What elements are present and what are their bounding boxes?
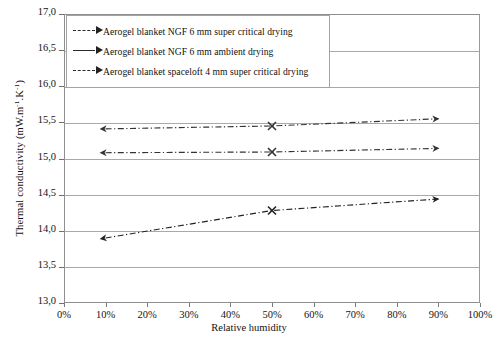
x-axis-tick-mark: [230, 303, 231, 307]
y-axis-title-sup1: -1: [13, 100, 21, 106]
legend-item[interactable]: Aerogel blanket NGF 6 mm super critical …: [73, 21, 323, 41]
x-axis-tick-label: 80%: [375, 309, 419, 320]
y-axis-title-text: Thermal conductivity (mW.m: [14, 107, 25, 237]
legend-item[interactable]: Aerogel blanket spaceloft 4 mm super cri…: [73, 61, 323, 81]
x-axis-tick-label: 40%: [208, 309, 252, 320]
x-axis-tick-label: 60%: [292, 309, 336, 320]
x-axis-tick-mark: [397, 303, 398, 307]
y-axis-tick-label: 16,0: [10, 78, 56, 89]
x-axis-tick-mark: [147, 303, 148, 307]
x-axis-tick-label: 70%: [333, 309, 377, 320]
legend-label: Aerogel blanket NGF 6 mm super critical …: [103, 26, 293, 37]
arrow-icon: [96, 46, 103, 54]
x-axis-tick-label: 100%: [458, 309, 498, 320]
x-axis-tick-mark: [272, 303, 273, 307]
x-axis-tick-label: 10%: [84, 309, 128, 320]
y-axis-tick-label: 14,0: [10, 223, 56, 234]
legend-label: Aerogel blanket spaceloft 4 mm super cri…: [103, 66, 308, 77]
x-axis-tick-label: 20%: [125, 309, 169, 320]
x-axis-tick-mark: [64, 303, 65, 307]
y-axis-tick-label: 13,0: [10, 295, 56, 306]
y-axis-tick-label: 15,0: [10, 151, 56, 162]
x-axis-tick-mark: [480, 303, 481, 307]
y-axis-title-mid: .K: [14, 90, 25, 101]
thermal-conductivity-chart: Thermal conductivity (mW.m-1.K-1) 13,013…: [0, 0, 498, 339]
x-axis-tick-label: 50%: [250, 309, 294, 320]
x-axis-tick-mark: [355, 303, 356, 307]
arrow-icon: [96, 26, 103, 34]
x-axis-tick-mark: [189, 303, 190, 307]
legend-item[interactable]: Aerogel blanket NGF 6 mm ambient drying: [73, 41, 323, 61]
legend-marker-series-1: [73, 24, 103, 38]
legend-marker-series-2: [73, 44, 103, 58]
data-line-series-1: [106, 119, 439, 129]
chart-legend: Aerogel blanket NGF 6 mm super critical …: [66, 15, 330, 88]
x-axis-tick-label: 90%: [416, 309, 460, 320]
y-axis-tick-label: 13,5: [10, 259, 56, 270]
data-line-series-3: [106, 199, 439, 238]
y-axis-tick-label: 16,5: [10, 42, 56, 53]
x-axis-tick-mark: [314, 303, 315, 307]
x-axis-tick-mark: [106, 303, 107, 307]
legend-marker-series-3: [73, 64, 103, 78]
legend-label: Aerogel blanket NGF 6 mm ambient drying: [103, 46, 273, 57]
y-axis-tick-label: 17,0: [10, 6, 56, 17]
y-axis-tick-label: 14,5: [10, 187, 56, 198]
y-axis-tick-label: 15,5: [10, 114, 56, 125]
x-axis-tick-label: 30%: [167, 309, 211, 320]
x-axis-title: Relative humidity: [0, 322, 498, 333]
x-axis-tick-label: 0%: [42, 309, 86, 320]
arrow-icon: [96, 66, 103, 74]
x-axis-tick-mark: [438, 303, 439, 307]
